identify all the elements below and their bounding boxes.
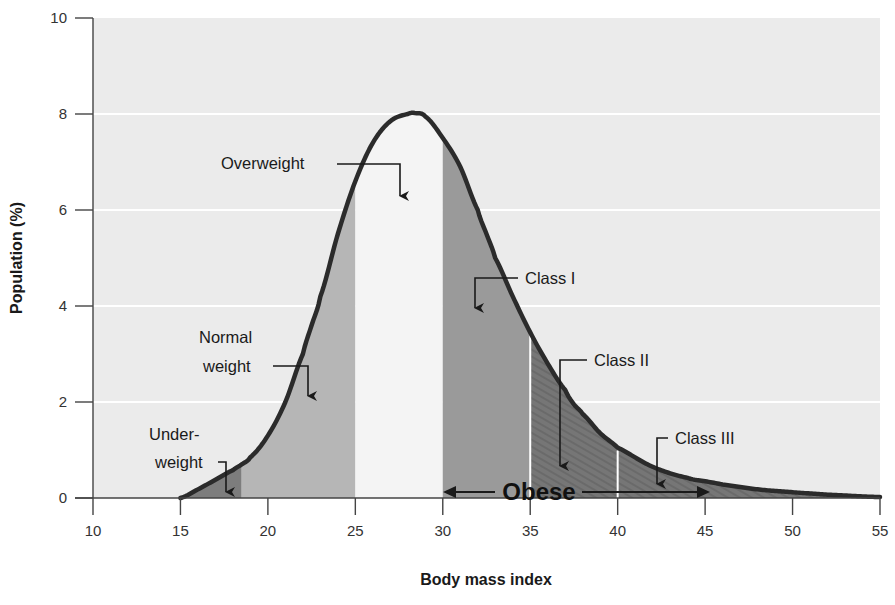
y-axis-title: Population (%) [8,202,25,314]
y-tick-label: 0 [59,489,67,506]
label-class-2: Class II [594,351,649,369]
bmi-distribution-chart: 0246810 10152025303540455055 Population … [0,0,895,605]
y-axis-ticks: 0246810 [50,9,93,506]
x-tick-label: 35 [522,522,539,539]
label-obese: Obese [502,478,575,505]
label-normal-line1: Normal [199,328,252,346]
label-normal-line2: weight [202,357,251,375]
x-tick-label: 15 [172,522,189,539]
x-tick-label: 50 [784,522,801,539]
x-axis-ticks: 10152025303540455055 [85,498,889,539]
y-tick-label: 2 [59,393,67,410]
x-tick-label: 55 [872,522,889,539]
region-overweight [355,113,442,498]
label-underweight-line2: weight [154,453,203,471]
x-tick-label: 40 [609,522,626,539]
label-underweight-line1: Under- [149,425,199,443]
label-overweight: Overweight [221,154,305,172]
y-tick-label: 8 [59,105,67,122]
clipped-figure-caption [6,597,326,605]
x-tick-label: 30 [434,522,451,539]
y-tick-label: 4 [59,297,67,314]
label-class-1: Class I [525,269,575,287]
x-tick-label: 25 [347,522,364,539]
label-class-3: Class III [675,429,735,447]
y-tick-label: 6 [59,201,67,218]
y-tick-label: 10 [50,9,67,26]
x-tick-label: 45 [697,522,714,539]
x-axis-title: Body mass index [420,571,552,588]
x-tick-label: 10 [85,522,102,539]
x-tick-label: 20 [260,522,277,539]
